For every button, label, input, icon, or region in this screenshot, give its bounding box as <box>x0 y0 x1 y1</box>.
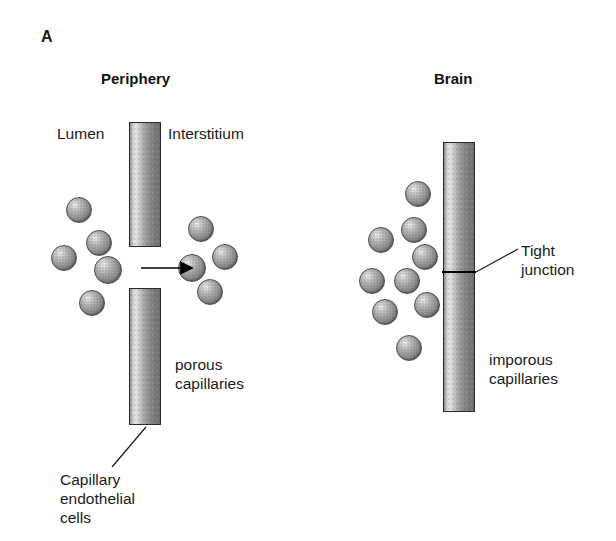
molecule-sphere <box>178 254 206 282</box>
panel-letter: A <box>41 28 53 46</box>
molecule-sphere <box>396 335 422 361</box>
label-porous-capillaries-line2: capillaries <box>175 375 244 392</box>
molecule-sphere <box>188 216 214 242</box>
periphery-lower-endothelial-cell <box>129 288 161 425</box>
label-capillary-endothelial-cells: Capillaryendothelialcells <box>60 470 135 527</box>
molecule-sphere <box>79 290 105 316</box>
label-tight-junction-line2: junction <box>521 261 574 278</box>
label-endothelium-line3: cells <box>60 509 91 526</box>
molecule-sphere <box>86 230 112 256</box>
molecule-sphere <box>359 268 385 294</box>
label-endothelium-line1: Capillary <box>60 471 120 488</box>
label-imporous-capillaries-line2: capillaries <box>489 370 558 387</box>
panel-title-periphery: Periphery <box>101 70 170 87</box>
label-porous-capillaries-line1: porous <box>175 356 222 373</box>
molecule-sphere <box>212 244 238 270</box>
tight-junction-leader-line <box>476 249 518 272</box>
molecule-sphere <box>405 181 431 207</box>
endothelial-cells-leader-line <box>112 427 146 467</box>
label-interstitium: Interstitium <box>168 124 244 143</box>
molecule-sphere <box>94 256 122 284</box>
panel-title-brain: Brain <box>434 70 472 87</box>
molecule-sphere <box>368 227 394 253</box>
molecule-sphere <box>394 268 420 294</box>
periphery-upper-endothelial-cell <box>129 122 161 247</box>
label-porous-capillaries: porouscapillaries <box>175 355 244 393</box>
figure-panel-a: A Periphery Lumen Interstitium porouscap… <box>0 0 616 541</box>
label-imporous-capillaries: imporouscapillaries <box>489 350 558 388</box>
label-tight-junction-line1: Tight <box>521 242 555 259</box>
molecule-sphere <box>414 292 440 318</box>
molecule-sphere <box>66 197 92 223</box>
label-endothelium-line2: endothelial <box>60 490 135 507</box>
molecule-sphere <box>372 299 398 325</box>
label-lumen: Lumen <box>57 124 104 143</box>
brain-continuous-endothelium <box>443 142 475 412</box>
molecule-sphere <box>197 279 223 305</box>
molecule-sphere <box>401 217 427 243</box>
label-imporous-capillaries-line1: imporous <box>489 351 553 368</box>
molecule-sphere <box>51 245 77 271</box>
molecule-sphere <box>412 244 438 270</box>
label-tight-junction: Tightjunction <box>521 241 574 279</box>
